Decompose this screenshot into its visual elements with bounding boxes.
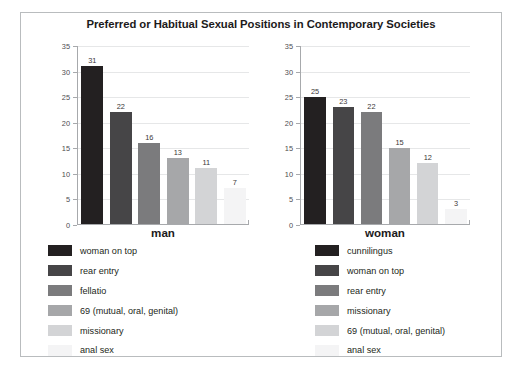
bar-value-label: 15 (395, 138, 403, 147)
legend-item[interactable]: 69 (mutual, oral, genital) (48, 301, 178, 321)
bar-value-label: 22 (367, 102, 375, 111)
y-axis-tick-label: 10 (285, 169, 293, 178)
legend-swatch (48, 265, 72, 276)
bar-slot: 25 (301, 46, 329, 224)
bar[interactable]: 16 (138, 143, 160, 224)
legend-swatch (48, 345, 72, 356)
y-axis-tick-label: 35 (62, 42, 70, 51)
y-axis-tick-label: 5 (66, 195, 70, 204)
category-axis-label-woman: woman (300, 226, 470, 239)
bar-value-label: 23 (339, 97, 347, 106)
bar-slot: 16 (135, 46, 164, 224)
legend-item[interactable]: rear entry (48, 261, 178, 281)
bar-value-label: 11 (202, 158, 210, 167)
bar[interactable]: 3 (445, 209, 466, 224)
bar-slot: 12 (414, 46, 442, 224)
y-axis-tick-label: 20 (285, 118, 293, 127)
legend-item-label: anal sex (347, 345, 381, 355)
chart-title: Preferred or Habitual Sexual Positions i… (20, 18, 502, 30)
bar-slot: 15 (386, 46, 414, 224)
legend-item[interactable]: missionary (48, 321, 178, 341)
legend-swatch (315, 345, 339, 356)
bar-value-label: 13 (174, 148, 182, 157)
panel-man: 0510152025303531221613117man (33, 40, 258, 240)
bar-slot: 23 (329, 46, 357, 224)
legend-swatch (315, 265, 339, 276)
panel-woman: 0510152025303525232215123woman (256, 40, 488, 240)
bar-group: 25232215123 (301, 46, 470, 224)
plot-area-woman: 0510152025303525232215123 (300, 46, 470, 225)
legend-item[interactable]: cunnilingus (315, 241, 445, 261)
bar[interactable]: 7 (224, 188, 246, 224)
legend-swatch (48, 305, 72, 316)
bar[interactable]: 31 (81, 66, 103, 224)
bar-slot: 13 (164, 46, 193, 224)
bar[interactable]: 23 (333, 107, 354, 224)
legend-item-label: rear entry (347, 286, 386, 296)
y-axis-tick-label: 30 (62, 67, 70, 76)
legend-item-label: woman on top (80, 246, 137, 256)
legend-item[interactable]: missionary (315, 301, 445, 321)
chart-figure: Preferred or Habitual Sexual Positions i… (0, 0, 524, 377)
legend-item-label: missionary (80, 326, 123, 336)
legend-item-label: woman on top (347, 266, 404, 276)
plot-area-man: 0510152025303531221613117 (77, 46, 249, 225)
bar-value-label: 7 (233, 178, 237, 187)
legend-item-label: 69 (mutual, oral, genital) (347, 326, 445, 336)
y-axis-tick-label: 20 (62, 118, 70, 127)
bar-slot: 7 (221, 46, 250, 224)
legend-item-label: missionary (347, 306, 390, 316)
legend-item-label: anal sex (80, 345, 114, 355)
legend-woman: cunnilinguswoman on toprear entrymission… (315, 241, 445, 360)
legend-item[interactable]: woman on top (315, 261, 445, 281)
bar[interactable]: 13 (167, 158, 189, 224)
legend-swatch (48, 245, 72, 256)
bar-value-label: 16 (145, 133, 153, 142)
x-axis-line (77, 224, 249, 225)
bar[interactable]: 11 (195, 168, 217, 224)
legend-item[interactable]: rear entry (315, 281, 445, 301)
y-axis-tick-label: 15 (285, 144, 293, 153)
y-axis-tick-label: 15 (62, 144, 70, 153)
legend-item-label: fellatio (80, 286, 106, 296)
legend-swatch (315, 305, 339, 316)
y-axis-tick-label: 25 (62, 93, 70, 102)
legend-swatch (48, 325, 72, 336)
legend-item-label: 69 (mutual, oral, genital) (80, 306, 178, 316)
y-axis-tick-label: 25 (285, 93, 293, 102)
legend-item[interactable]: fellatio (48, 281, 178, 301)
bar[interactable]: 22 (110, 112, 132, 224)
bar-value-label: 12 (424, 153, 432, 162)
legend-item-label: cunnilingus (347, 246, 393, 256)
bar[interactable]: 12 (417, 163, 438, 224)
legend-item[interactable]: woman on top (48, 241, 178, 261)
legend-item-label: rear entry (80, 266, 119, 276)
bar[interactable]: 25 (304, 97, 325, 224)
legend-item[interactable]: 69 (mutual, oral, genital) (315, 321, 445, 341)
bar-slot: 3 (442, 46, 470, 224)
bar-value-label: 22 (117, 102, 125, 111)
y-axis-tick-label: 10 (62, 169, 70, 178)
y-axis-tick-label: 5 (289, 195, 293, 204)
y-axis-tick-label: 35 (285, 42, 293, 51)
x-axis-line (300, 224, 470, 225)
legend-swatch (315, 325, 339, 336)
bar[interactable]: 22 (361, 112, 382, 224)
y-axis-tick-label: 30 (285, 67, 293, 76)
legend-swatch (48, 285, 72, 296)
legend-swatch (315, 245, 339, 256)
bar-slot: 31 (78, 46, 107, 224)
legend-item[interactable]: anal sex (315, 340, 445, 360)
category-axis-label-man: man (77, 226, 249, 239)
bar-value-label: 25 (311, 87, 319, 96)
bar[interactable]: 15 (389, 148, 410, 224)
legend-item[interactable]: anal sex (48, 340, 178, 360)
bar-value-label: 3 (454, 199, 458, 208)
legend-swatch (315, 285, 339, 296)
legend-man: woman on toprear entryfellatio69 (mutual… (48, 241, 178, 360)
y-axis-tick-label: 0 (66, 221, 70, 230)
bar-slot: 22 (357, 46, 385, 224)
bar-slot: 22 (107, 46, 136, 224)
y-axis-tick-label: 0 (289, 221, 293, 230)
bar-value-label: 31 (88, 56, 96, 65)
